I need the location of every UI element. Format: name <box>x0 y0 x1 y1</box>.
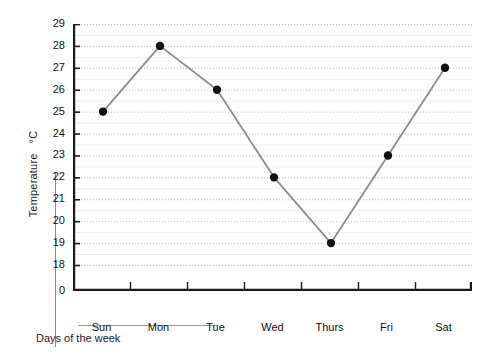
y-axis-tick-label: 18 <box>39 259 65 270</box>
x-axis-tick-label: Tue <box>191 322 241 333</box>
gridlines <box>75 25 472 266</box>
axis-lines <box>73 24 472 291</box>
x-axis-title: Days of the week <box>36 332 120 344</box>
y-axis-tick-label: 0 <box>39 285 65 296</box>
x-axis-tick-label: Sun <box>77 322 127 333</box>
y-axis-tick-label: 25 <box>39 106 65 117</box>
y-axis-title-text: Temperature <box>27 153 39 217</box>
data-point <box>327 239 335 247</box>
plot-area: SunMonTueWedThursFriSat <box>73 24 472 291</box>
x-axis-tick-label: Sat <box>419 322 469 333</box>
y-axis-unit: °C <box>27 131 39 144</box>
x-axis-tick-label: Thurs <box>305 322 355 333</box>
data-point <box>270 173 278 181</box>
data-point <box>99 107 107 115</box>
y-axis-tick-label: 29 <box>39 18 65 29</box>
x-axis-tick-label: Wed <box>248 322 298 333</box>
y-axis-tick-label: 26 <box>39 84 65 95</box>
data-point <box>156 42 164 50</box>
data-point <box>384 151 392 159</box>
y-axis-tick-label: 19 <box>39 237 65 248</box>
data-point <box>441 64 449 72</box>
data-point <box>213 86 221 94</box>
y-axis-tick-label: 28 <box>39 40 65 51</box>
chart-figure: Temperature°C Days of the week 292827262… <box>0 0 498 363</box>
y-axis-title: Temperature°C <box>27 84 39 264</box>
x-axis-ticks <box>131 282 416 289</box>
y-axis-tick-label: 20 <box>39 215 65 226</box>
x-axis-tick-label: Fri <box>362 322 412 333</box>
y-axis-tick-label: 24 <box>39 128 65 139</box>
x-axis-tick-label: Mon <box>134 322 184 333</box>
y-axis-tick-label: 22 <box>39 171 65 182</box>
y-axis-tick-label: 23 <box>39 149 65 160</box>
y-axis-tick-label: 21 <box>39 193 65 204</box>
chart-canvas <box>73 24 472 291</box>
y-axis-tick-label: 27 <box>39 62 65 73</box>
